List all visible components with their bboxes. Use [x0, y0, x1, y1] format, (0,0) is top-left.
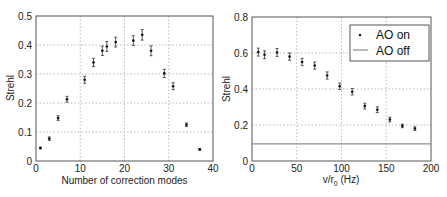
data-point	[288, 53, 291, 60]
data-point	[48, 137, 51, 140]
data-point	[263, 51, 266, 59]
legend-ao-on-marker-icon	[359, 34, 361, 36]
y-tick-label: 0.2	[18, 98, 32, 109]
data-point	[57, 116, 60, 121]
left-y-axis-label: Strehl	[5, 75, 16, 101]
legend-ao-off-label: AO off	[376, 44, 410, 58]
x-tick-label: 10	[75, 163, 87, 174]
data-point	[326, 72, 329, 79]
data-point	[313, 62, 316, 69]
data-point	[150, 46, 153, 56]
data-point	[92, 58, 95, 66]
data-point	[39, 147, 42, 150]
data-point	[65, 96, 68, 102]
x-tick-label: 100	[333, 163, 350, 174]
y-tick-label: 0.8	[234, 12, 248, 23]
data-point	[301, 58, 304, 65]
data-point	[163, 69, 166, 77]
y-tick-label: 0.4	[234, 84, 248, 95]
left-x-axis-label: Number of correction modes	[61, 175, 187, 186]
y-tick-label: 0.1	[18, 127, 32, 138]
data-point	[83, 76, 86, 83]
x-tick-label: 40	[207, 163, 219, 174]
data-point	[105, 42, 108, 52]
data-point	[276, 49, 279, 57]
data-point	[132, 36, 135, 46]
legend: AO on AO off	[350, 25, 429, 61]
right-x-tick-labels: 050100150200	[249, 163, 440, 174]
data-point	[388, 117, 391, 122]
data-point	[363, 103, 366, 109]
data-point	[141, 30, 144, 40]
left-data-points	[39, 30, 201, 151]
data-point	[172, 83, 175, 90]
y-tick-label: 0.6	[234, 48, 248, 59]
left-y-tick-labels: 00.10.20.30.40.5	[18, 11, 32, 167]
right-x-axis-label: v/r0 (Hz)	[323, 174, 360, 187]
left-chart: 00.10.20.30.40.5 010203040 Number of cor…	[5, 11, 219, 187]
y-tick-label: 0.5	[18, 11, 32, 22]
y-tick-label: 0.2	[234, 120, 248, 131]
left-x-tick-labels: 010203040	[33, 163, 219, 174]
y-tick-label: 0	[242, 156, 248, 167]
right-y-axis-label: Strehl	[221, 76, 232, 102]
right-chart: 00.20.40.60.8 050100150200 AO on AO off …	[221, 12, 440, 188]
figure: 00.10.20.30.40.5 010203040 Number of cor…	[0, 0, 447, 197]
data-point	[185, 123, 188, 126]
right-x-axis-label-main: v/r	[323, 174, 335, 185]
right-x-axis-label-units: (Hz)	[338, 174, 360, 185]
y-tick-label: 0.4	[18, 40, 32, 51]
data-point	[257, 48, 260, 56]
y-tick-label: 0	[26, 156, 32, 167]
data-point	[198, 148, 201, 151]
right-y-tick-labels: 00.20.40.60.8	[234, 12, 248, 167]
y-tick-label: 0.3	[18, 69, 32, 80]
legend-ao-on-label: AO on	[376, 28, 410, 42]
x-tick-label: 20	[119, 163, 131, 174]
x-tick-label: 30	[163, 163, 175, 174]
x-tick-label: 200	[423, 163, 440, 174]
x-tick-label: 150	[378, 163, 395, 174]
data-point	[114, 37, 117, 47]
data-point	[376, 107, 379, 113]
data-point	[413, 127, 416, 131]
left-grid	[36, 16, 213, 161]
x-tick-label: 50	[291, 163, 303, 174]
x-tick-label: 0	[33, 163, 39, 174]
data-point	[101, 46, 104, 55]
x-tick-label: 0	[249, 163, 255, 174]
